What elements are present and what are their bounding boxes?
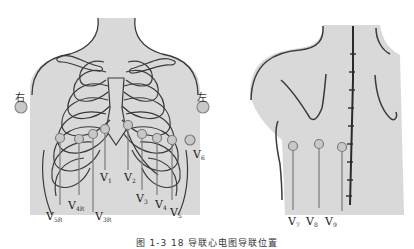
right-side-label: 右 — [15, 89, 25, 104]
lead-label-v4: V4 — [155, 199, 167, 211]
figure-caption: 图 1-3 18 导联心电图导联位置 — [0, 236, 414, 249]
lead-label-v1: V1 — [100, 172, 112, 184]
lead-label-v5r: V5R — [46, 211, 62, 223]
lead-label-v7: V7 — [288, 216, 300, 228]
left-side-label: 左 — [197, 89, 207, 104]
lead-label-v6: V6 — [193, 149, 205, 161]
lead-label-v9: V9 — [325, 216, 337, 228]
lead-label-v4r: V4R — [68, 200, 84, 212]
back-torso — [250, 25, 404, 215]
lead-label-v3: V3 — [136, 193, 148, 205]
lead-label-v2: V2 — [124, 172, 136, 184]
lead-label-v5: V5 — [170, 207, 182, 219]
lead-label-v8: V8 — [306, 216, 318, 228]
front-torso — [30, 18, 200, 215]
lead-label-v3r: V3R — [95, 211, 111, 223]
